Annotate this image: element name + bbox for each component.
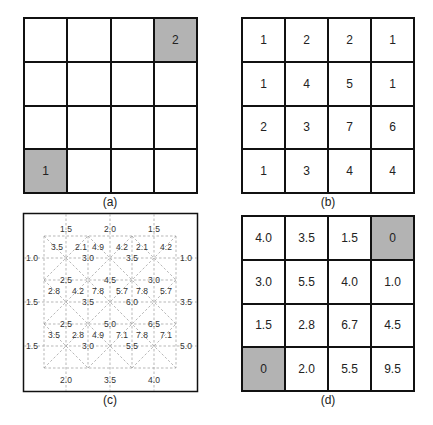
bottom-label-1: 3.5 <box>104 375 116 385</box>
tri-0-4: 2.1 <box>136 242 148 252</box>
tri-1-2: 7.8 <box>92 286 104 296</box>
tri-0-2: 4.9 <box>92 242 104 252</box>
caption-c: (c) <box>80 393 140 407</box>
cell-b-1-2: 5 <box>328 62 371 106</box>
tri-2-1: 2.8 <box>72 330 84 340</box>
cell-b-2-3: 6 <box>371 106 414 150</box>
cell-d-3-1: 2.0 <box>285 347 328 391</box>
cell-d-2-0: 1.5 <box>242 304 285 348</box>
cell-b-1-3: 1 <box>371 62 414 106</box>
mid-0-2: 3.0 <box>148 275 160 285</box>
top-label-0: 1.5 <box>60 224 72 234</box>
node-2-0: 3.0 <box>82 341 94 351</box>
cell-d-2-2: 6.7 <box>328 304 371 348</box>
right-label-2: 5.0 <box>180 341 192 351</box>
cell-d-1-2: 4.0 <box>328 260 371 304</box>
cell-b-1-0: 1 <box>242 62 285 106</box>
cell-b-3-3: 4 <box>371 149 414 193</box>
cell-d-3-2: 5.5 <box>328 347 371 391</box>
right-label-0: 1.0 <box>180 253 192 263</box>
node-0-0: 3.0 <box>82 253 94 263</box>
top-label-2: 1.5 <box>148 224 160 234</box>
tri-0-5: 4.2 <box>160 242 172 252</box>
mid-1-2: 6.5 <box>148 319 160 329</box>
mid-0-1: 4.5 <box>104 275 116 285</box>
caption-d: (d) <box>298 393 358 407</box>
cell-d-0-0: 4.0 <box>242 216 285 260</box>
cell-b-2-1: 3 <box>285 106 328 150</box>
cell-b-1-1: 4 <box>285 62 328 106</box>
cell-d-2-3: 4.5 <box>371 304 414 348</box>
cell-d-3-3: 9.5 <box>371 347 414 391</box>
left-label-0: 1.0 <box>26 253 38 263</box>
tri-2-4: 7.8 <box>136 330 148 340</box>
grid-b: 1 2 2 1 1 4 5 1 2 3 7 6 1 3 4 4 <box>241 17 415 194</box>
cell-b-3-1: 3 <box>285 149 328 193</box>
node-2-1: 5.5 <box>126 341 138 351</box>
grid-d: 4.0 3.5 1.5 0 3.0 5.5 4.0 1.0 1.5 2.8 6.… <box>241 215 415 392</box>
bottom-label-0: 2.0 <box>60 375 72 385</box>
cell-b-0-3: 1 <box>371 18 414 62</box>
tri-1-3: 5.7 <box>116 286 128 296</box>
cell-b-2-2: 7 <box>328 106 371 150</box>
left-label-2: 1.5 <box>26 341 38 351</box>
cell-d-0-3: 0 <box>371 216 414 260</box>
tri-2-0: 3.5 <box>48 330 60 340</box>
top-label-1: 2.0 <box>104 224 116 234</box>
cell-b-0-0: 1 <box>242 18 285 62</box>
tri-0-1: 2.1 <box>75 242 87 252</box>
tri-0-3: 4.2 <box>116 242 128 252</box>
cell-d-0-1: 3.5 <box>285 216 328 260</box>
tri-2-3: 7.1 <box>116 330 128 340</box>
mid-1-0: 2.5 <box>60 319 72 329</box>
mid-0-0: 2.5 <box>60 275 72 285</box>
interpolation-diagram: 1.5 2.0 1.5 3.5 2.1 4.9 4.2 2.1 4.2 1.0 … <box>0 0 216 425</box>
cell-b-3-0: 1 <box>242 149 285 193</box>
node-1-0: 3.5 <box>82 297 94 307</box>
cell-d-1-0: 3.0 <box>242 260 285 304</box>
tri-1-0: 2.8 <box>48 286 60 296</box>
cell-b-2-0: 2 <box>242 106 285 150</box>
tri-0-0: 3.5 <box>51 242 63 252</box>
cell-b-3-2: 4 <box>328 149 371 193</box>
node-1-1: 6.0 <box>126 297 138 307</box>
cell-d-1-1: 5.5 <box>285 260 328 304</box>
tri-1-1: 4.2 <box>72 286 84 296</box>
tri-2-5: 7.1 <box>160 330 172 340</box>
mid-1-1: 5.0 <box>104 319 116 329</box>
cell-d-3-0: 0 <box>242 347 285 391</box>
cell-b-0-1: 2 <box>285 18 328 62</box>
cell-b-0-2: 2 <box>328 18 371 62</box>
right-label-1: 3.5 <box>180 297 192 307</box>
tri-1-5: 5.7 <box>160 286 172 296</box>
cell-d-2-1: 2.8 <box>285 304 328 348</box>
tri-1-4: 7.8 <box>136 286 148 296</box>
cell-d-1-3: 1.0 <box>371 260 414 304</box>
tri-2-2: 4.9 <box>92 330 104 340</box>
cell-d-0-2: 1.5 <box>328 216 371 260</box>
node-0-1: 3.5 <box>126 253 138 263</box>
caption-b: (b) <box>298 195 358 209</box>
bottom-label-2: 4.0 <box>148 375 160 385</box>
left-label-1: 1.5 <box>26 297 38 307</box>
